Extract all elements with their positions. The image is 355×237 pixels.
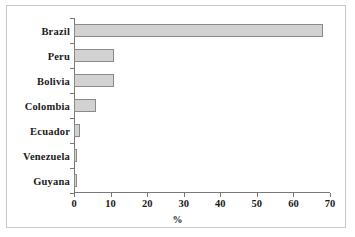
bar: [74, 74, 114, 87]
x-tick-label: 70: [315, 198, 345, 209]
x-axis-line: [74, 192, 330, 193]
x-tick: [74, 193, 75, 197]
y-tick: [70, 68, 74, 69]
y-tick: [70, 18, 74, 19]
category-label: Venezuela: [0, 150, 70, 163]
y-tick: [70, 143, 74, 144]
x-tick: [220, 193, 221, 197]
x-tick: [147, 193, 148, 197]
category-label: Brazil: [0, 25, 70, 38]
x-tick-label: 20: [132, 198, 162, 209]
bar: [74, 124, 80, 137]
bar: [74, 24, 323, 37]
category-label: Ecuador: [0, 125, 70, 138]
y-tick: [70, 168, 74, 169]
x-axis-label: %: [0, 214, 355, 225]
x-tick: [111, 193, 112, 197]
bar: [74, 49, 114, 62]
category-label: Peru: [0, 50, 70, 63]
x-tick-label: 50: [242, 198, 272, 209]
bar: [74, 149, 77, 162]
y-tick: [70, 118, 74, 119]
x-tick: [257, 193, 258, 197]
bar: [74, 174, 77, 187]
category-label: Bolivia: [0, 75, 70, 88]
bar: [74, 99, 96, 112]
x-tick-label: 40: [205, 198, 235, 209]
y-tick: [70, 43, 74, 44]
x-tick: [293, 193, 294, 197]
x-tick: [184, 193, 185, 197]
y-tick: [70, 93, 74, 94]
x-tick-label: 60: [278, 198, 308, 209]
chart-figure: BrazilPeruBoliviaColombiaEcuadorVenezuel…: [0, 0, 355, 237]
x-tick-label: 10: [96, 198, 126, 209]
plot-area: BrazilPeruBoliviaColombiaEcuadorVenezuel…: [0, 0, 355, 237]
x-tick-label: 0: [59, 198, 89, 209]
category-label: Guyana: [0, 175, 70, 188]
x-tick: [330, 193, 331, 197]
category-label: Colombia: [0, 100, 70, 113]
x-tick-label: 30: [169, 198, 199, 209]
